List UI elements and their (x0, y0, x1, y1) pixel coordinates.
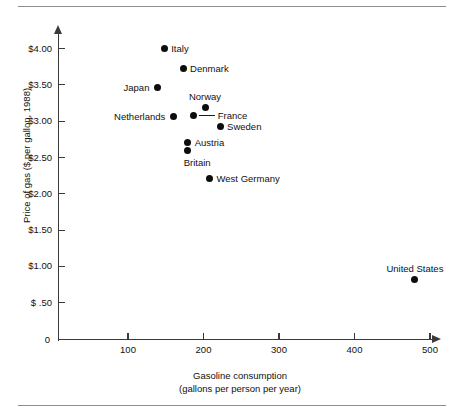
scatter-plot-figure: $4.00$3.50$3.00$2.50$2.00$1.50$1.00$ .50… (0, 0, 463, 413)
x-tick-1 (203, 333, 204, 340)
data-point-united-states[interactable] (411, 276, 418, 283)
data-point-denmark[interactable] (180, 65, 187, 72)
y-tick-label-6: $1.00 (0, 261, 52, 271)
page-rule-bottom (18, 405, 446, 406)
data-point-italy[interactable] (161, 45, 168, 52)
data-point-label-united-states: United States (386, 263, 443, 274)
y-tick-7 (58, 302, 65, 303)
data-point-britain[interactable] (184, 147, 191, 154)
data-point-label-austria: Austria (195, 137, 225, 148)
data-point-france[interactable] (190, 112, 197, 119)
data-point-label-norway: Norway (189, 91, 221, 102)
x-tick-2 (278, 333, 279, 340)
x-axis-title-line1: Gasoline consumption (120, 370, 360, 383)
page-rule-top (18, 6, 446, 7)
y-axis-arrow-icon (54, 25, 62, 34)
y-tick-label-0: $4.00 (0, 44, 52, 54)
y-axis-title: Price of gas ($ per gallon, 1988) (21, 66, 32, 246)
data-point-west-germany[interactable] (206, 175, 213, 182)
x-tick-label-3: 400 (335, 344, 375, 355)
y-tick-3 (58, 157, 65, 158)
y-tick-6 (58, 266, 65, 267)
x-tick-label-0: 100 (108, 344, 148, 355)
x-axis-title: Gasoline consumption (gallons per person… (120, 370, 360, 395)
data-point-label-netherlands: Netherlands (114, 111, 165, 122)
data-point-label-japan: Japan (124, 82, 150, 93)
x-tick-label-2: 300 (259, 344, 299, 355)
data-point-japan[interactable] (154, 84, 161, 91)
leader-line-france (199, 115, 215, 116)
y-axis-line (58, 33, 59, 341)
data-point-norway[interactable] (202, 104, 209, 111)
y-tick-2 (58, 121, 65, 122)
data-point-label-sweden: Sweden (227, 121, 261, 132)
y-tick-5 (58, 230, 65, 231)
y-axis-origin-label: 0 (24, 334, 50, 345)
data-point-sweden[interactable] (217, 123, 224, 130)
data-point-label-west-germany: West Germany (217, 173, 280, 184)
x-tick-3 (354, 333, 355, 340)
data-point-label-italy: Italy (171, 43, 188, 54)
data-point-label-denmark: Denmark (190, 63, 229, 74)
x-axis-line (58, 339, 436, 340)
x-tick-label-1: 200 (184, 344, 224, 355)
y-tick-label-7: $ .50 (0, 298, 52, 308)
data-point-netherlands[interactable] (170, 113, 177, 120)
data-point-label-britain: Britain (184, 157, 211, 168)
x-tick-0 (127, 333, 128, 340)
y-tick-0 (58, 48, 65, 49)
x-tick-label-4: 500 (410, 344, 450, 355)
data-point-label-france: France (218, 110, 248, 121)
x-tick-4 (429, 333, 430, 340)
x-axis-arrow-icon (432, 335, 441, 343)
data-point-austria[interactable] (184, 139, 191, 146)
y-tick-4 (58, 193, 65, 194)
x-axis-title-line2: (gallons per person per year) (120, 383, 360, 396)
y-tick-1 (58, 84, 65, 85)
